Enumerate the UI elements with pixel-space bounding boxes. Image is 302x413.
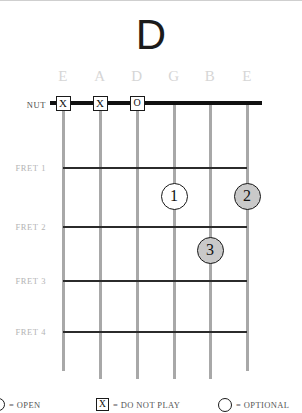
row-label-fret-4: FRET 4 bbox=[0, 327, 46, 337]
fret-line-4 bbox=[63, 331, 247, 333]
circle-optional-icon bbox=[218, 398, 232, 412]
legend-item-optional: = OPTIONAL bbox=[218, 396, 289, 413]
string-4-d bbox=[136, 103, 139, 379]
row-label-fret-1: FRET 1 bbox=[0, 163, 46, 173]
string-3-g bbox=[173, 103, 176, 379]
x-icon: X bbox=[57, 97, 70, 109]
string-label-6-low-e: E bbox=[50, 68, 76, 85]
nut-bar bbox=[50, 101, 262, 105]
fret-line-3 bbox=[63, 280, 247, 282]
legend-label-optional: = OPTIONAL bbox=[236, 400, 289, 410]
fret-line-1 bbox=[63, 167, 247, 169]
string-label-4-d: D bbox=[124, 68, 150, 85]
legend: = OPEN X = DO NOT PLAY = OPTIONAL bbox=[0, 396, 302, 413]
x-icon: X bbox=[96, 398, 109, 411]
legend-item-do-not-play: X = DO NOT PLAY bbox=[96, 396, 180, 413]
finger-dot-3: 3 bbox=[197, 237, 224, 264]
legend-label-open: = OPEN bbox=[9, 400, 41, 410]
circle-open-icon: O bbox=[131, 97, 144, 109]
legend-item-open: = OPEN bbox=[0, 396, 41, 413]
string-5-a bbox=[99, 103, 102, 379]
string-label-5-a: A bbox=[87, 68, 113, 85]
x-icon: X bbox=[94, 97, 107, 109]
fret-line-2 bbox=[63, 226, 247, 228]
string-label-2-b: B bbox=[197, 68, 223, 85]
row-label-fret-2: FRET 2 bbox=[0, 222, 46, 232]
finger-dot-2: 2 bbox=[234, 183, 261, 210]
circle-open-icon bbox=[0, 398, 5, 411]
legend-label-do-not-play: = DO NOT PLAY bbox=[113, 400, 180, 410]
row-label-fret-3: FRET 3 bbox=[0, 276, 46, 286]
nut-marker-string-5-do-not-play: X bbox=[93, 96, 108, 111]
nut-marker-string-6-do-not-play: X bbox=[56, 96, 71, 111]
chord-diagram: E A D G B E NUT FRET 1 FRET 2 FRET 3 FRE… bbox=[0, 0, 302, 395]
string-label-1-high-e: E bbox=[234, 68, 260, 85]
string-label-3-g: G bbox=[161, 68, 187, 85]
nut-marker-string-4-open: O bbox=[130, 96, 145, 111]
row-label-nut: NUT bbox=[0, 100, 46, 110]
finger-dot-1: 1 bbox=[161, 183, 188, 210]
